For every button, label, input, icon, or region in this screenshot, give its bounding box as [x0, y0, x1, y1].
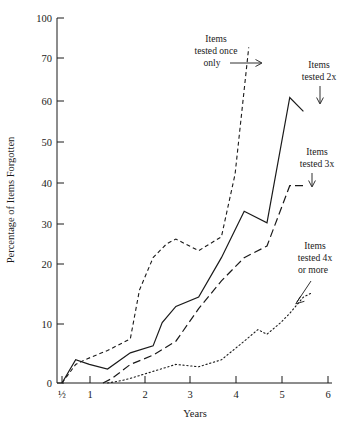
- y-tick-label-40: 40: [42, 178, 53, 189]
- annotation-once-only-line-3: only: [203, 57, 220, 68]
- annotation-once-only-line-2: tested once: [195, 45, 238, 56]
- y-tick-label-100: 100: [36, 13, 52, 24]
- y-tick-label-30: 30: [42, 219, 53, 230]
- y-axis-ticks: 100 70 60 50 40 30 20 10 0: [36, 13, 64, 389]
- y-tick-label-20: 20: [42, 259, 53, 270]
- annotation-once-only-arrow-icon: [230, 60, 262, 67]
- x-tick-label-4: 4: [233, 389, 239, 400]
- annotation-tested-2x-line-2: tested 2x: [302, 71, 337, 82]
- x-axis-ticks: ½ 1 2 3 4 5 6: [58, 376, 331, 400]
- series-items-tested-3x: [103, 186, 303, 383]
- annotation-tested-4x-line-3: or more: [298, 264, 328, 275]
- x-tick-label-6: 6: [325, 389, 330, 400]
- annotation-tested-3x-arrow-icon: [309, 173, 316, 187]
- x-tick-label-2: 2: [142, 389, 147, 400]
- annotation-tested-3x-line-2: tested 3x: [300, 158, 335, 169]
- x-tick-label-1: 1: [87, 389, 92, 400]
- x-tick-label-half: ½: [58, 389, 66, 400]
- annotation-once-only: Items tested once only: [195, 33, 262, 68]
- axes: [57, 18, 332, 383]
- series-items-tested-2x: [62, 97, 303, 383]
- forgetting-curve-chart: 100 70 60 50 40 30 20 10 0 ½ 1 2 3 4 5 6: [0, 0, 358, 423]
- series-items-tested-once-only: [62, 47, 249, 383]
- annotation-tested-4x-line-2: tested 4x: [298, 252, 333, 263]
- annotation-once-only-line-1: Items: [205, 33, 227, 44]
- series-items-tested-4x-or-more: [108, 292, 313, 383]
- annotation-tested-2x: Items tested 2x: [302, 59, 337, 104]
- y-tick-label-10: 10: [42, 319, 53, 330]
- annotation-tested-4x-arrow-icon: [296, 281, 311, 304]
- annotation-tested-4x: Items tested 4x or more: [296, 240, 333, 304]
- y-tick-label-0: 0: [47, 378, 52, 389]
- x-tick-label-5: 5: [279, 389, 284, 400]
- y-tick-label-60: 60: [42, 96, 53, 107]
- y-axis-title: Percentage of Items Forgotten: [5, 136, 16, 263]
- annotation-tested-4x-line-1: Items: [304, 240, 326, 251]
- x-axis-title: Years: [183, 408, 206, 419]
- y-tick-label-50: 50: [42, 137, 53, 148]
- x-tick-label-3: 3: [187, 389, 192, 400]
- annotation-tested-2x-arrow-icon: [317, 86, 324, 104]
- y-tick-label-70: 70: [42, 53, 53, 64]
- annotation-tested-2x-line-1: Items: [308, 59, 330, 70]
- chart-svg: 100 70 60 50 40 30 20 10 0 ½ 1 2 3 4 5 6: [0, 0, 358, 423]
- series-group: [62, 47, 313, 383]
- annotation-tested-3x-line-1: Items: [306, 146, 328, 157]
- annotation-tested-3x: Items tested 3x: [300, 146, 335, 187]
